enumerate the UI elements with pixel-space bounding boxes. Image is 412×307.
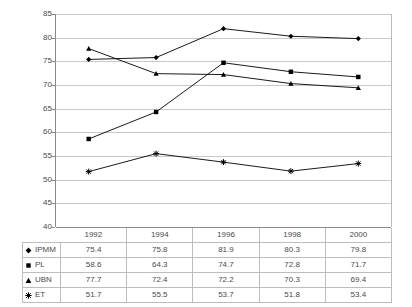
cell-ipmm-1992: 75.4 [61,243,127,258]
cell-pl-1996: 74.7 [193,258,259,273]
cell-et-1998: 51.8 [259,288,325,303]
cell-et-1994: 55.5 [127,288,193,303]
column-header-1994: 1994 [127,228,193,243]
legend-item-ubn[interactable]: UBN [23,273,61,288]
y-tick-50: 50 [26,176,52,184]
chart-figure: 40455055606570758085 1992199419961998200… [0,0,412,307]
y-tick-60: 60 [26,128,52,136]
cell-ipmm-1998: 80.3 [259,243,325,258]
y-tick-75: 75 [26,57,52,65]
cell-ubn-1994: 72.4 [127,273,193,288]
legend-item-et[interactable]: ET [23,288,61,303]
data-table-region: 19921994199619982000IPMM75.475.881.980.3… [22,228,392,304]
legend-item-ipmm[interactable]: IPMM [23,243,61,258]
y-tick-80: 80 [26,34,52,42]
cell-pl-2000: 71.7 [325,258,391,273]
table-header-row: 19921994199619982000 [23,228,392,243]
table-row: PL58.664.374.772.871.7 [23,258,392,273]
table-corner-cell [23,228,61,243]
column-header-1996: 1996 [193,228,259,243]
asterisk-marker-icon [25,292,32,299]
cell-pl-1992: 58.6 [61,258,127,273]
triangle-marker-icon [25,277,32,284]
square-marker-icon [25,262,32,269]
legend-label: PL [35,258,45,272]
legend-label: ET [35,288,45,302]
y-tick-70: 70 [26,81,52,89]
cell-ipmm-1996: 81.9 [193,243,259,258]
y-tick-55: 55 [26,152,52,160]
y-tick-45: 45 [26,199,52,207]
cell-ubn-1996: 72.2 [193,273,259,288]
y-tick-85: 85 [26,10,52,18]
legend-label: UBN [35,273,52,287]
cell-et-1992: 51.7 [61,288,127,303]
table-row: UBN77.772.472.270.369.4 [23,273,392,288]
legend-item-pl[interactable]: PL [23,258,61,273]
cell-ubn-2000: 69.4 [325,273,391,288]
series-et [86,151,362,175]
plot-region: 40455055606570758085 [0,0,412,232]
cell-ipmm-2000: 79.8 [325,243,391,258]
column-header-2000: 2000 [325,228,391,243]
y-tick-65: 65 [26,105,52,113]
data-table: 19921994199619982000IPMM75.475.881.980.3… [22,228,392,303]
cell-ubn-1992: 77.7 [61,273,127,288]
column-header-1992: 1992 [61,228,127,243]
series-ubn [86,46,361,90]
cell-pl-1994: 64.3 [127,258,193,273]
cell-pl-1998: 72.8 [259,258,325,273]
cell-ipmm-1994: 75.8 [127,243,193,258]
table-row: IPMM75.475.881.980.379.8 [23,243,392,258]
series-ipmm [86,26,361,62]
diamond-marker-icon [25,247,32,254]
column-header-1998: 1998 [259,228,325,243]
series-lines-layer [55,14,392,227]
legend-label: IPMM [35,243,56,257]
cell-ubn-1998: 70.3 [259,273,325,288]
cell-et-2000: 53.4 [325,288,391,303]
table-row: ET51.755.553.751.853.4 [23,288,392,303]
cell-et-1996: 53.7 [193,288,259,303]
